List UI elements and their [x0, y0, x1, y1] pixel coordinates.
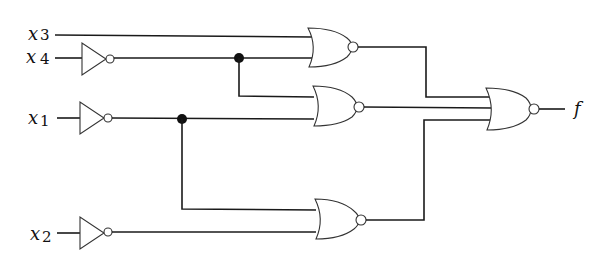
svg-text:x: x	[26, 46, 36, 67]
nor-gate-output	[486, 88, 539, 130]
wire-x3	[55, 35, 312, 37]
wire-not-x4-branch	[239, 58, 314, 97]
output-label-f: f	[572, 98, 584, 119]
input-label-x1: x 1	[28, 107, 50, 130]
wire-nor2-out	[364, 107, 492, 108]
svg-text:4: 4	[40, 50, 50, 68]
nor-gate-1	[308, 28, 358, 67]
wire-not-x1	[112, 118, 314, 119]
wire-nor3-out	[366, 120, 490, 220]
nor-gate-3	[315, 199, 366, 239]
svg-text:x: x	[30, 223, 40, 244]
svg-text:2: 2	[42, 228, 52, 246]
input-label-x3: x 3	[28, 23, 50, 44]
input-label-x2: x 2	[30, 223, 52, 246]
svg-text:x: x	[28, 23, 38, 44]
inverter-x2	[80, 217, 112, 249]
inverter-x1	[80, 102, 112, 134]
wire-nor1-out	[358, 47, 490, 97]
logic-circuit-diagram: x 3 x 4 x 1 x 2	[0, 0, 603, 269]
input-label-x4: x 4	[26, 46, 50, 68]
svg-text:3: 3	[40, 26, 50, 44]
nor-gate-2	[313, 86, 364, 126]
svg-text:1: 1	[40, 112, 50, 130]
wire-not-x1-branch	[182, 119, 316, 210]
svg-text:x: x	[28, 107, 38, 128]
inverter-x4	[82, 43, 114, 75]
